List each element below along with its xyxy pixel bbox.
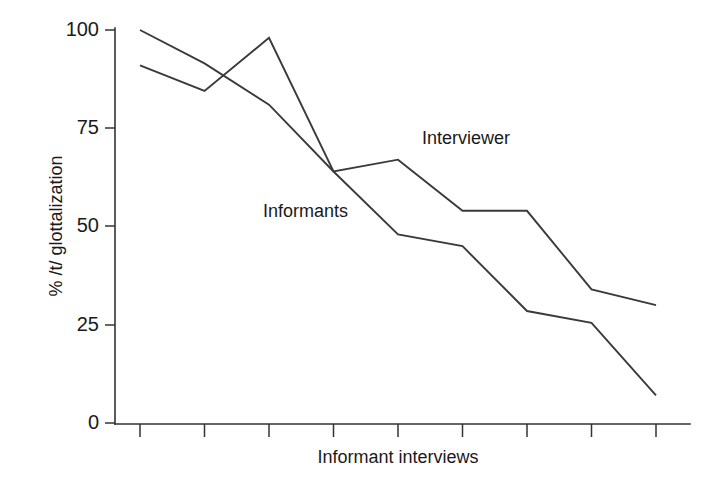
y-tick-label-25: 25 xyxy=(77,313,99,335)
chart-figure: 100 75 50 25 0 % /t/ glottalization Info… xyxy=(0,0,715,487)
line-chart: 100 75 50 25 0 % /t/ glottalization Info… xyxy=(0,0,715,487)
y-tick-label-0: 0 xyxy=(88,411,99,433)
y-tick-label-50: 50 xyxy=(77,214,99,236)
y-tick-label-75: 75 xyxy=(77,116,99,138)
chart-background xyxy=(0,0,715,487)
x-axis-title: Informant interviews xyxy=(317,447,478,467)
y-axis-title: % /t/ glottalization xyxy=(46,155,66,296)
series-label-interviewer: Interviewer xyxy=(422,128,510,148)
series-label-informants: Informants xyxy=(263,201,348,221)
y-tick-label-100: 100 xyxy=(66,18,99,40)
